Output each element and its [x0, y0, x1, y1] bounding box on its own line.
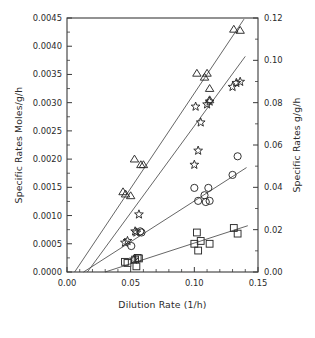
data-point-star [135, 210, 144, 218]
scatter-plot-svg: 0.000.050.100.150.00000.00050.00100.0015… [0, 0, 315, 338]
y-tick-label-left: 0.0015 [33, 182, 62, 192]
data-point-star [196, 118, 205, 126]
data-point-triangle [193, 69, 201, 76]
x-tick-label: 0.05 [121, 278, 140, 288]
y-tick-label-left: 0.0045 [33, 13, 62, 23]
data-point-circle [128, 242, 135, 249]
y-tick-label-left: 0.0030 [33, 98, 62, 108]
x-tick-label: 0.15 [249, 278, 268, 288]
axes-layer [67, 18, 258, 272]
chart-figure: 0.000.050.100.150.00000.00050.00100.0015… [0, 0, 315, 338]
regression-line [87, 56, 245, 272]
data-point-square [195, 247, 202, 254]
data-point-triangle [205, 85, 213, 92]
data-point-star [123, 236, 132, 244]
y-tick-label-left: 0.0005 [33, 239, 62, 249]
data-point-star [190, 160, 199, 168]
y-tick-label-left: 0.0020 [33, 154, 62, 164]
y-tick-label-left: 0.0025 [33, 126, 62, 136]
y-tick-label-right: 0.06 [264, 140, 283, 150]
x-tick-label: 0.10 [185, 278, 204, 288]
y-tick-label-right: 0.02 [264, 225, 283, 235]
y-tick-label-right: 0.04 [264, 182, 283, 192]
x-tick-label: 0.00 [58, 278, 77, 288]
data-point-circle [205, 184, 212, 191]
regression-line [84, 168, 247, 272]
y-axis-title-right: Specific Rates g/g/h [291, 97, 302, 192]
y-tick-label-left: 0.0000 [33, 267, 62, 277]
y-tick-label-right: 0.00 [264, 267, 283, 277]
regression-line [75, 19, 244, 272]
y-tick-label-left: 0.0035 [33, 69, 62, 79]
data-point-circle [234, 153, 241, 160]
data-point-square [133, 263, 140, 270]
y-tick-label-left: 0.0040 [33, 41, 62, 51]
data-point-square [193, 229, 200, 236]
x-axis-title: Dilution Rate (1/h) [118, 299, 206, 310]
y-axis-title-left: Specific Rates Moles/g/h [13, 87, 24, 204]
data-point-square [206, 240, 213, 247]
data-point-circle [191, 184, 198, 191]
y-tick-label-right: 0.10 [264, 55, 283, 65]
data-point-star [194, 146, 203, 154]
data-point-triangle [130, 155, 138, 162]
fit-lines-layer [75, 19, 248, 272]
data-point-star [205, 97, 214, 105]
y-tick-label-left: 0.0010 [33, 211, 62, 221]
data-point-star [228, 82, 237, 90]
y-tick-label-right: 0.08 [264, 98, 283, 108]
plot-frame [67, 18, 258, 272]
y-tick-label-right: 0.12 [264, 13, 283, 23]
data-point-star [191, 102, 200, 110]
axis-labels-layer: 0.000.050.100.150.00000.00050.00100.0015… [13, 13, 302, 310]
